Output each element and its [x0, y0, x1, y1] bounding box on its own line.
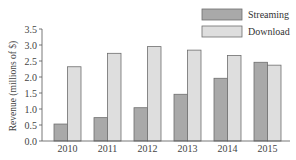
bar-download-2012 — [148, 47, 162, 141]
y-tick-label: 2.5 — [25, 56, 38, 67]
bar-streaming-2014 — [214, 78, 228, 141]
bar-streaming-2010 — [54, 124, 68, 141]
y-tick-label: 0.5 — [25, 120, 38, 131]
bar-streaming-2013 — [174, 94, 188, 141]
legend-swatch-download — [202, 26, 242, 37]
bar-streaming-2015 — [254, 62, 268, 141]
x-tick-label: 2013 — [178, 143, 198, 154]
legend: Streaming Download — [202, 9, 290, 37]
x-axis: 201020112012201320142015 — [42, 141, 290, 154]
bar-download-2011 — [108, 53, 122, 141]
y-tick-label: 1.0 — [25, 104, 38, 115]
y-tick-label: 1.5 — [25, 88, 38, 99]
legend-label-streaming: Streaming — [248, 9, 289, 20]
revenue-bar-chart: 0.00.51.01.52.02.53.03.5 201020112012201… — [0, 0, 296, 160]
x-tick-label: 2012 — [138, 143, 158, 154]
y-tick-label: 2.0 — [25, 72, 38, 83]
legend-swatch-streaming — [202, 9, 242, 20]
bar-download-2010 — [68, 67, 82, 141]
x-tick-label: 2015 — [258, 143, 278, 154]
bar-download-2013 — [188, 50, 202, 141]
x-tick-label: 2014 — [218, 143, 238, 154]
bar-streaming-2011 — [94, 118, 108, 141]
y-axis-label: Revenue (millions of $) — [8, 41, 19, 132]
bar-download-2015 — [268, 65, 282, 141]
x-tick-label: 2010 — [58, 143, 78, 154]
legend-label-download: Download — [248, 26, 290, 37]
bar-download-2014 — [228, 56, 242, 141]
x-tick-label: 2011 — [98, 143, 118, 154]
bars — [54, 47, 281, 141]
bar-streaming-2012 — [134, 108, 148, 141]
y-tick-label: 3.0 — [25, 40, 38, 51]
y-tick-label: 3.5 — [25, 24, 38, 35]
y-axis: 0.00.51.01.52.02.53.03.5 — [25, 24, 43, 147]
y-tick-label: 0.0 — [25, 136, 38, 147]
